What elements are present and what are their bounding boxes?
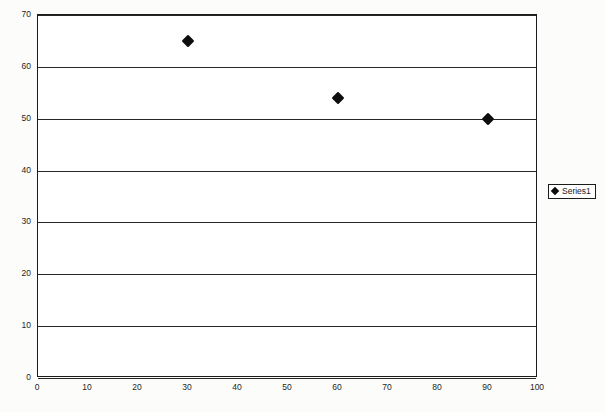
x-tick-label-30: 30 <box>182 383 191 392</box>
y-axis-tick-labels: 010203040506070 <box>0 14 31 377</box>
gridline-y-10 <box>38 326 536 327</box>
x-tick-label-20: 20 <box>132 383 141 392</box>
gridline-y-30 <box>38 222 536 223</box>
plot-area <box>37 14 537 377</box>
x-tick-label-70: 70 <box>382 383 391 392</box>
y-tick-label-20: 20 <box>22 269 31 278</box>
x-axis-tick-labels: 0102030405060708090100 <box>37 383 537 397</box>
gridline-y-50 <box>38 119 536 120</box>
x-tick-label-40: 40 <box>232 383 241 392</box>
data-point <box>482 112 495 125</box>
scatter-chart: 010203040506070 0102030405060708090100 S… <box>0 0 605 412</box>
gridline-y-0 <box>38 378 536 379</box>
y-tick-label-0: 0 <box>26 373 31 382</box>
gridline-y-70 <box>38 15 536 16</box>
y-tick-label-30: 30 <box>22 217 31 226</box>
x-tick-label-50: 50 <box>282 383 291 392</box>
x-tick-label-0: 0 <box>35 383 40 392</box>
x-tick-label-60: 60 <box>332 383 341 392</box>
data-point <box>332 92 345 105</box>
legend-label: Series1 <box>562 187 591 196</box>
gridline-y-60 <box>38 67 536 68</box>
x-tick-label-90: 90 <box>482 383 491 392</box>
x-tick-label-10: 10 <box>82 383 91 392</box>
y-tick-label-40: 40 <box>22 165 31 174</box>
x-tick-label-80: 80 <box>432 383 441 392</box>
gridline-y-40 <box>38 171 536 172</box>
chart-legend: Series1 <box>548 184 596 199</box>
data-point <box>182 35 195 48</box>
gridline-y-20 <box>38 274 536 275</box>
y-tick-label-50: 50 <box>22 113 31 122</box>
y-tick-label-10: 10 <box>22 321 31 330</box>
x-tick-label-100: 100 <box>530 383 544 392</box>
y-tick-label-70: 70 <box>22 10 31 19</box>
y-tick-label-60: 60 <box>22 62 31 71</box>
diamond-marker-icon <box>551 187 559 195</box>
